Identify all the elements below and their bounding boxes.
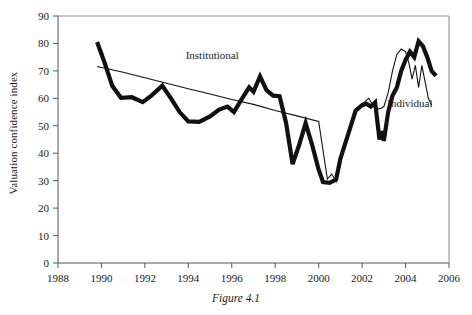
y-tick-label: 0 — [44, 257, 50, 269]
y-tick-label: 70 — [38, 65, 50, 77]
x-tick-label: 1990 — [90, 272, 113, 284]
y-tick-label: 60 — [38, 92, 50, 104]
y-tick-label: 40 — [38, 147, 50, 159]
x-tick-label: 1992 — [134, 272, 156, 284]
y-tick-label: 90 — [38, 10, 50, 22]
y-tick-label: 50 — [38, 120, 50, 132]
x-tick-label: 2002 — [351, 272, 373, 284]
figure-caption: Figure 4.1 — [0, 292, 472, 304]
x-tick-label: 1988 — [47, 272, 70, 284]
x-tick-label: 1994 — [177, 272, 200, 284]
series-line-individual — [97, 49, 432, 182]
x-tick-label: 1998 — [264, 272, 287, 284]
y-tick-label: 30 — [38, 175, 50, 187]
y-tick-label: 10 — [38, 230, 50, 242]
annotation-institutional: Institutional — [186, 49, 239, 61]
x-axis-ticks: 1988199019921994199619982000200220042006 — [47, 263, 461, 284]
x-tick-label: 2006 — [438, 272, 461, 284]
x-tick-label: 2004 — [395, 272, 418, 284]
x-tick-label: 2000 — [308, 272, 331, 284]
data-series-group — [97, 41, 436, 183]
series-line-institutional — [97, 41, 436, 183]
y-tick-label: 20 — [38, 202, 50, 214]
annotation-individual: Individual — [387, 97, 432, 109]
chart-plot: 0102030405060708090 19881990199219941996… — [0, 0, 472, 292]
x-tick-label: 1996 — [221, 272, 244, 284]
y-axis-ticks: 0102030405060708090 — [38, 10, 58, 269]
figure-container: Valuation confidence index 0102030405060… — [0, 0, 472, 315]
y-tick-label: 80 — [38, 37, 50, 49]
